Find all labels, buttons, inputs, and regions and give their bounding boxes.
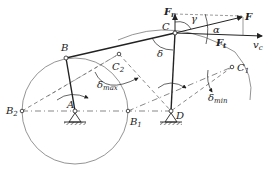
ground-support-a [64, 113, 86, 125]
label-a: A [66, 99, 74, 110]
rocker-cd [171, 33, 175, 111]
label-c2: C2 [112, 61, 125, 74]
delta-min-arc [208, 70, 213, 92]
alpha-arc [205, 14, 208, 44]
label-b: B [60, 42, 68, 53]
mechanism-diagram: B A C D B2 B1 C1 C2 Fn F Ft vc γ α δ δma… [0, 0, 273, 175]
label-b2: B2 [5, 105, 18, 118]
fn-f-dash [175, 14, 242, 16]
joint-c [173, 31, 177, 35]
f-vector [175, 17, 242, 33]
point-b1 [126, 109, 130, 113]
label-d: D [175, 110, 184, 121]
gamma-arc [175, 22, 191, 29]
label-delta-max: δmax [97, 79, 118, 92]
point-b2 [20, 109, 24, 113]
label-ft: Ft [215, 37, 227, 50]
label-fn: Fn [163, 6, 176, 19]
point-c2 [117, 52, 121, 56]
rocker-arc [118, 30, 251, 100]
label-c1: C1 [237, 62, 249, 75]
label-c: C [162, 21, 170, 32]
point-c1 [230, 65, 234, 69]
label-delta: δ [157, 48, 163, 59]
joint-b [64, 56, 68, 60]
label-alpha: α [213, 24, 220, 35]
label-b1: B1 [129, 116, 142, 129]
label-delta-min: δmin [208, 92, 228, 105]
label-f: F [244, 11, 253, 22]
label-vc: vc [253, 39, 263, 52]
label-gamma: γ [191, 13, 197, 24]
